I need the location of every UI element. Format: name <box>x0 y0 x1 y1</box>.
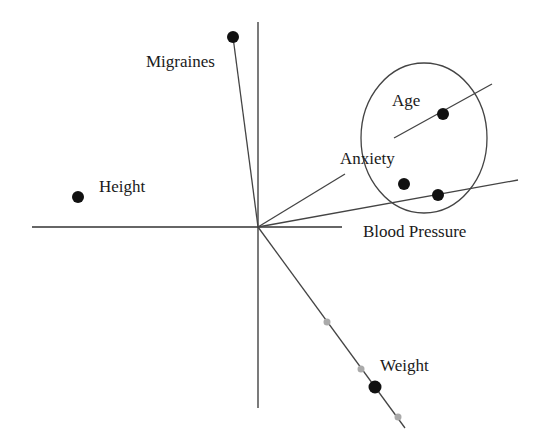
height-label: Height <box>99 177 146 196</box>
blood-pressure-point <box>432 189 444 201</box>
weight-label: Weight <box>380 356 429 375</box>
height-point <box>72 191 84 203</box>
weight-ghost-point <box>395 414 402 421</box>
migraines-vector <box>233 37 258 227</box>
weight-ghost-point <box>358 366 365 373</box>
migraines-label: Migraines <box>146 52 215 71</box>
cluster-ellipse <box>361 63 487 213</box>
weight-ghost-point <box>324 319 331 326</box>
weight-vector <box>258 227 405 428</box>
migraines-point <box>227 31 239 43</box>
anxiety-label: Anxiety <box>340 149 395 168</box>
weight-point <box>369 381 382 394</box>
age-label: Age <box>392 91 420 110</box>
age-point <box>437 108 449 120</box>
anxiety-point <box>398 178 410 190</box>
biplot-diagram: Migraines Height Age Anxiety Blood Press… <box>0 0 549 447</box>
blood-pressure-label: Blood Pressure <box>363 222 466 241</box>
